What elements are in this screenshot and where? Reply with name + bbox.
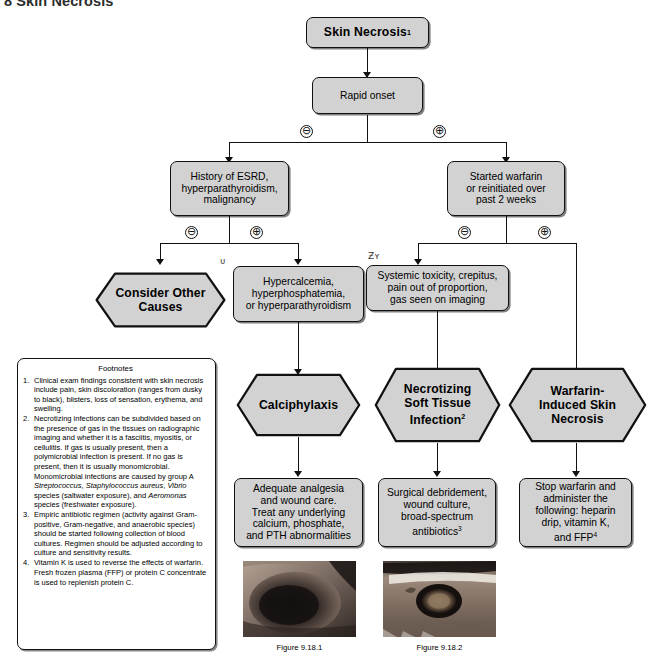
footnote-item: 1. Clinical exam findings consistent wit… — [23, 376, 208, 414]
footnotes-list: 1. Clinical exam findings consistent wit… — [23, 376, 208, 588]
footnotes-panel: Footnotes 1. Clinical exam findings cons… — [17, 358, 216, 650]
footnotes-title: Footnotes — [23, 364, 208, 374]
footnote-text: Clinical exam findings consistent with s… — [34, 376, 203, 414]
node-label-text: Surgical debridement,wound culture,broad… — [387, 487, 487, 537]
photo-image — [243, 561, 356, 637]
node-label-text: Stop warfarin andadminister thefollowing… — [535, 481, 616, 543]
node-systemic-toxicity[interactable]: Systemic toxicity, crepitus,pain out of … — [366, 265, 509, 311]
scan-artifact-mark-b: Ƶʏ — [368, 251, 380, 261]
footnote-ref: 4 — [593, 531, 597, 538]
node-started-warfarin[interactable]: Started warfarinor reinitiated overpast … — [447, 161, 565, 216]
arrowhead-tx-nsti — [433, 471, 441, 477]
node-hypercalcemia[interactable]: Hypercalcemia,hyperphosphatemia,or hyper… — [233, 266, 364, 322]
branch-sign-rapid-negative: ⊖ — [300, 125, 313, 138]
node-label: Stop warfarin andadminister thefollowing… — [535, 481, 616, 544]
page-title: 8 Skin Necrosis — [4, 0, 114, 9]
connector-warfarin-down — [506, 216, 507, 244]
node-label: Rapid onset — [340, 90, 395, 102]
footnote-number: 4. — [23, 558, 29, 568]
node-label: History of ESRD,hyperparathyroidism,mali… — [181, 171, 277, 207]
node-label: Warfarin-Induced SkinNecrosis — [508, 384, 647, 426]
footnote-ref: 2 — [461, 413, 465, 420]
connector-wisn-to-tx — [576, 443, 577, 474]
footnote-number: 3. — [23, 510, 29, 520]
node-treatment-nsti[interactable]: Surgical debridement,wound culture,broad… — [378, 478, 496, 547]
arrowhead-other-causes — [156, 259, 164, 265]
node-label: Systemic toxicity, crepitus,pain out of … — [378, 270, 498, 306]
node-history-esrd[interactable]: History of ESRD,hyperparathyroidism,mali… — [170, 161, 289, 216]
connector-calci-to-tx — [298, 437, 299, 474]
branch-sign-esrd-negative: ⊖ — [185, 226, 198, 239]
connector-rapid-down — [367, 115, 368, 143]
connector-warfarin-right — [576, 243, 577, 373]
node-label: Started warfarinor reinitiated overpast … — [466, 171, 546, 207]
footnote-number: 1. — [23, 376, 29, 386]
footnote-text: Empiric antibiotic regimen (activity aga… — [34, 510, 202, 557]
minus-icon: ⊖ — [302, 125, 311, 136]
arrowhead-tx-calci — [294, 471, 302, 477]
plus-icon: ⊕ — [540, 226, 549, 237]
node-necrotizing-soft-tissue-infection[interactable]: NecrotizingSoft TissueInfection2 — [374, 367, 501, 443]
node-label: Skin Necrosis — [324, 27, 407, 39]
clinical-photo-2 — [383, 561, 496, 637]
branch-sign-esrd-positive: ⊕ — [250, 226, 263, 239]
branch-sign-warfarin-positive: ⊕ — [538, 226, 551, 239]
node-label: Consider OtherCauses — [95, 286, 226, 314]
node-label: Hypercalcemia,hyperphosphatemia,or hyper… — [246, 276, 351, 312]
connector-rapid-split — [229, 142, 506, 143]
footnote-item: 4. Vitamin K is used to reverse the effe… — [23, 558, 208, 587]
connector-warfarin-split — [418, 243, 576, 244]
figure-caption-1: Figure 9.18.1 — [243, 643, 356, 652]
connector-systemic-down — [437, 311, 438, 371]
footnote-text: Necrotizing infections can be subdivided… — [34, 414, 201, 509]
branch-sign-warfarin-negative: ⊖ — [458, 226, 471, 239]
node-skin-necrosis[interactable]: Skin Necrosis1 — [306, 17, 429, 48]
node-consider-other-causes[interactable]: Consider OtherCauses — [95, 272, 226, 328]
connector-nsti-to-tx — [437, 443, 438, 474]
flowchart-canvas: 8 Skin Necrosis ⊖ ⊕ ⊖ ⊕ — [0, 0, 656, 662]
footnote-ref: 1 — [407, 27, 411, 39]
minus-icon: ⊖ — [460, 226, 469, 237]
photo-image — [383, 561, 496, 637]
branch-sign-rapid-positive: ⊕ — [433, 125, 446, 138]
node-label: NecrotizingSoft TissueInfection2 — [374, 382, 501, 427]
node-rapid-onset[interactable]: Rapid onset — [312, 77, 423, 114]
footnote-number: 2. — [23, 414, 29, 424]
minus-icon: ⊖ — [187, 226, 196, 237]
figure-caption-2: Figure 9.18.2 — [383, 643, 496, 652]
node-treatment-wisn[interactable]: Stop warfarin andadminister thefollowing… — [519, 478, 632, 547]
node-treatment-calciphylaxis[interactable]: Adequate analgesiaand wound care.Treat a… — [234, 478, 363, 547]
node-label-text: NecrotizingSoft TissueInfection — [404, 382, 471, 427]
node-label: Calciphylaxis — [236, 398, 361, 412]
connector-root-to-rapid — [367, 48, 368, 75]
node-label: Adequate analgesiaand wound care.Treat a… — [246, 483, 351, 543]
connector-esrd-down — [229, 216, 230, 244]
scan-artifact-mark-a: ᴜ — [220, 256, 225, 266]
plus-icon: ⊕ — [435, 125, 444, 136]
connector-hypercalcemia-down — [298, 322, 299, 372]
footnote-item: 3. Empiric antibiotic regimen (activity … — [23, 510, 208, 558]
node-calciphylaxis[interactable]: Calciphylaxis — [236, 373, 361, 437]
arrowhead-tx-wisn — [572, 471, 580, 477]
node-label: Surgical debridement,wound culture,broad… — [387, 487, 487, 538]
connector-esrd-split — [160, 243, 298, 244]
clinical-photo-1 — [243, 561, 356, 637]
footnote-item: 2. Necrotizing infections can be subdivi… — [23, 414, 208, 509]
footnote-text: Vitamin K is used to reverse the effects… — [34, 558, 206, 586]
plus-icon: ⊕ — [252, 226, 261, 237]
node-warfarin-induced-skin-necrosis[interactable]: Warfarin-Induced SkinNecrosis — [508, 367, 647, 443]
footnote-ref: 3 — [458, 525, 462, 532]
arrowhead-hypercalcemia — [294, 259, 302, 265]
